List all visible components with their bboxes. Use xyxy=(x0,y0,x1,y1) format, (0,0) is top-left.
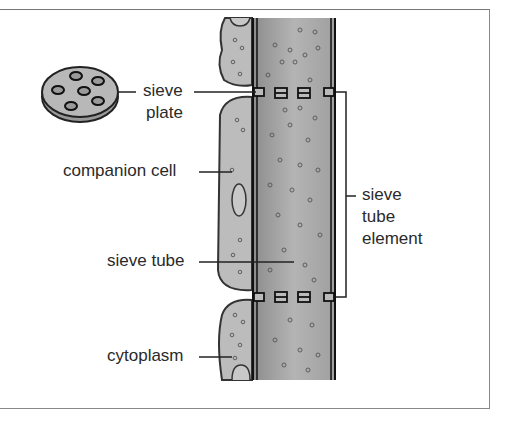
sieve-tube xyxy=(253,18,335,380)
label-sieve-tube-element-2: tube xyxy=(362,207,395,227)
sieve-plate-icon xyxy=(42,67,118,122)
label-sieve-tube-element-1: sieve xyxy=(362,185,402,205)
label-cytoplasm: cytoplasm xyxy=(107,346,184,366)
label-sieve-plate-1: sieve xyxy=(143,81,183,101)
label-sieve-tube-element-3: element xyxy=(362,229,422,249)
label-sieve-tube: sieve tube xyxy=(107,251,185,271)
phloem-diagram xyxy=(0,0,512,422)
label-companion-cell: companion cell xyxy=(63,161,176,181)
companion-cells xyxy=(218,18,252,380)
label-sieve-plate-2: plate xyxy=(146,103,183,123)
